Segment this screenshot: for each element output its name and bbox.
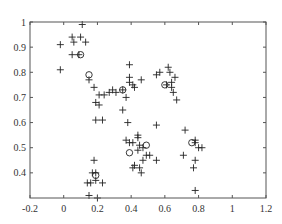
plus-marker: [173, 96, 180, 103]
plus-marker: [70, 39, 77, 46]
plus-marker: [153, 122, 160, 129]
plus-marker: [165, 64, 172, 71]
plus-marker: [91, 157, 98, 164]
plus-marker: [77, 34, 84, 41]
y-tick-label: 1: [21, 17, 26, 28]
plus-marker: [166, 69, 173, 76]
plus-marker: [139, 157, 146, 164]
plus-marker: [180, 152, 187, 159]
plus-marker: [91, 84, 98, 91]
y-tick-label: 0.5: [14, 142, 27, 153]
plus-marker: [146, 152, 153, 159]
plus-marker: [153, 157, 160, 164]
circle-marker: [126, 150, 132, 156]
plot-area: [57, 21, 206, 201]
plus-marker: [171, 74, 178, 81]
x-tick-label: 1: [230, 203, 235, 214]
y-tick-label: 0.9: [14, 42, 27, 53]
plus-marker: [57, 66, 64, 73]
plus-marker: [138, 169, 145, 176]
plus-marker: [69, 34, 76, 41]
y-tick-label: 0.7: [14, 92, 27, 103]
x-tick-label: 0.4: [125, 203, 138, 214]
plus-marker: [57, 41, 64, 48]
x-tick-label: 0.6: [159, 203, 172, 214]
plus-marker: [192, 157, 199, 164]
plus-marker: [198, 144, 205, 151]
x-axis: -0.200.20.40.60.811.2: [22, 22, 272, 214]
plus-marker: [92, 117, 99, 124]
x-tick-label: -0.2: [22, 203, 38, 214]
plus-marker: [126, 61, 133, 68]
x-tick-label: 0.8: [192, 203, 205, 214]
y-tick-label: 0.4: [14, 167, 27, 178]
y-tick-label: 0.8: [14, 67, 27, 78]
plus-marker: [182, 127, 189, 134]
plus-marker: [190, 164, 197, 171]
plus-marker: [124, 119, 131, 126]
x-tick-label: 0.2: [91, 203, 104, 214]
plus-marker: [82, 39, 89, 46]
axes-frame: [30, 22, 266, 198]
x-tick-label: 1.2: [260, 203, 273, 214]
y-tick-label: 0.6: [14, 117, 27, 128]
plus-marker: [99, 117, 106, 124]
plus-marker: [69, 51, 76, 58]
scatter-chart: -0.200.20.40.60.811.2 0.40.50.60.70.80.9…: [0, 0, 282, 224]
plus-marker: [99, 179, 106, 186]
plus-marker: [129, 139, 136, 146]
plus-marker: [138, 76, 145, 83]
y-axis: 0.40.50.60.70.80.91: [14, 17, 267, 179]
plus-marker: [119, 107, 126, 114]
plus-marker: [123, 94, 130, 101]
plus-marker: [192, 187, 199, 194]
plus-marker: [170, 89, 177, 96]
x-tick-label: 0: [61, 203, 66, 214]
